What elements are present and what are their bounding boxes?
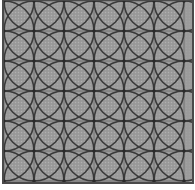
grid-node [122,89,126,93]
grid-node [62,119,66,123]
grid-node [62,29,66,33]
grid-node [182,59,186,63]
grid-node [152,89,156,93]
grid-node [92,119,96,123]
grid-node [92,29,96,33]
interlocking-circles-pattern [0,0,195,190]
grid-node [32,59,36,63]
grid-node [152,29,156,33]
pattern-canvas: Interlocking circles tile pattern Seamle… [0,0,195,190]
grid-node [122,149,126,153]
grid-node [32,119,36,123]
grid-node [122,29,126,33]
grid-node [62,89,66,93]
grid-node [32,29,36,33]
grid-node [62,149,66,153]
grid-node [152,59,156,63]
grid-node [182,149,186,153]
grid-node [92,59,96,63]
grid-node [32,149,36,153]
grid-node [32,89,36,93]
grid-node [62,59,66,63]
grid-node [152,149,156,153]
grid-node [92,89,96,93]
grid-node [122,119,126,123]
grid-node [152,119,156,123]
grid-node [182,119,186,123]
grid-node [182,29,186,33]
grid-node [182,89,186,93]
grid-node [92,149,96,153]
grid-node [122,59,126,63]
